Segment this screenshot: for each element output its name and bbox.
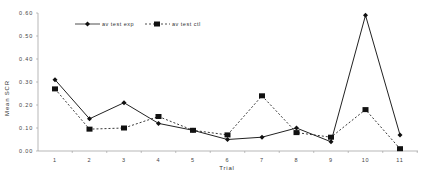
x-tick-label: 11 [396, 157, 403, 163]
diamond-marker-icon [398, 132, 403, 137]
square-marker-icon [294, 130, 300, 135]
y-tick-label: 0.60 [19, 10, 33, 16]
x-tick-label: 7 [260, 157, 264, 163]
diamond-marker-icon [294, 126, 299, 131]
square-marker-icon [397, 146, 403, 151]
x-tick-label: 8 [295, 157, 299, 163]
diamond-marker-icon [156, 121, 161, 126]
series-line [55, 15, 400, 142]
square-marker-icon [225, 132, 231, 137]
legend-label-exp: av test exp [102, 21, 134, 27]
line-chart: 0.000.100.200.300.400.500.60 12345678910… [0, 0, 430, 175]
diamond-marker-icon [260, 135, 265, 140]
y-tick-label: 0.20 [19, 102, 33, 108]
diamond-marker-icon [225, 137, 230, 142]
plot-series [52, 13, 403, 151]
x-axis: 1234567891011 [38, 151, 418, 163]
x-tick-label: 3 [122, 157, 126, 163]
x-axis-title: Trial [219, 165, 234, 171]
square-marker-icon [156, 114, 162, 119]
y-tick-label: 0.50 [19, 33, 33, 39]
square-marker-icon [190, 128, 196, 133]
y-tick-label: 0.30 [19, 79, 33, 85]
y-tick-label: 0.00 [19, 148, 33, 154]
square-marker-icon [363, 107, 369, 112]
square-marker-icon [87, 127, 93, 132]
x-tick-label: 10 [362, 157, 370, 163]
y-tick-label: 0.10 [19, 125, 33, 131]
legend-item-exp: av test exp [75, 21, 134, 27]
diamond-marker-icon [85, 22, 90, 27]
diamond-marker-icon [363, 13, 368, 18]
y-axis-title: Mean SCR [4, 80, 10, 116]
diamond-marker-icon [329, 139, 334, 144]
legend-item-ctl: av test ctl [145, 21, 201, 27]
x-tick-label: 2 [88, 157, 92, 163]
x-tick-label: 9 [329, 157, 333, 163]
y-axis: 0.000.100.200.300.400.500.60 [19, 10, 38, 154]
square-marker-icon [52, 86, 58, 91]
x-tick-label: 5 [191, 157, 195, 163]
legend: av test exp av test ctl [75, 21, 201, 27]
legend-label-ctl: av test ctl [172, 21, 201, 27]
square-marker-icon [154, 22, 160, 27]
square-marker-icon [259, 93, 265, 98]
series-exp [53, 13, 403, 145]
square-marker-icon [121, 126, 127, 131]
square-marker-icon [328, 135, 334, 140]
y-tick-label: 0.40 [19, 56, 33, 62]
x-tick-label: 4 [157, 157, 161, 163]
diamond-marker-icon [122, 100, 127, 105]
x-tick-label: 6 [226, 157, 230, 163]
x-tick-label: 1 [53, 157, 57, 163]
